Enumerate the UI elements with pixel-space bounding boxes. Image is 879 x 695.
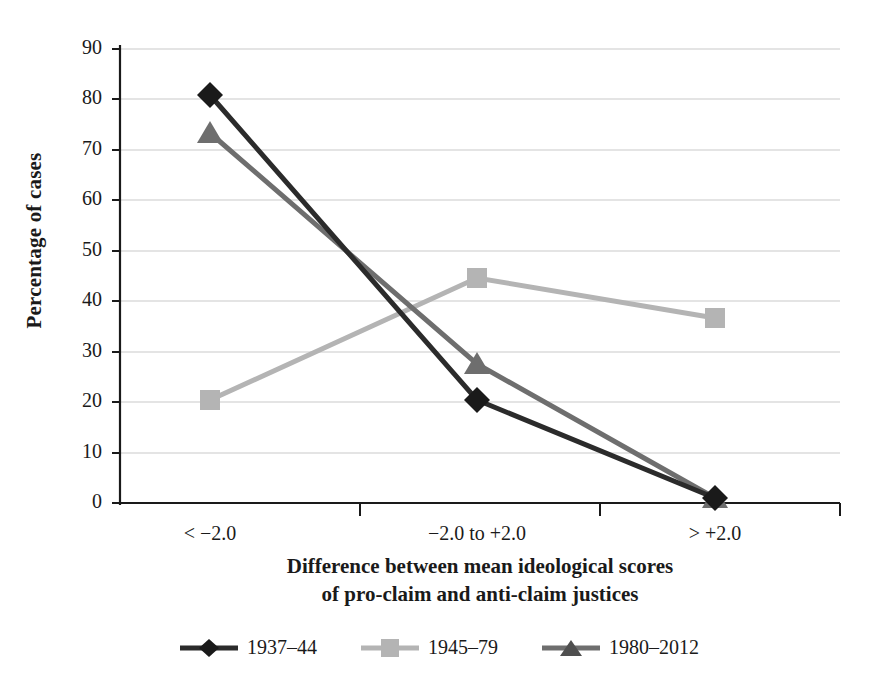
y-tick-label-40: 40: [56, 288, 102, 311]
x-tick-label-minus-2-to-plus-2: −2.0 to +2.0: [377, 522, 577, 545]
legend-item-1937-44[interactable]: 1937–44: [180, 636, 317, 659]
y-axis-title: Percentage of cases: [22, 111, 47, 371]
x-tick-label-lt-minus-2: < −2.0: [130, 522, 290, 545]
legend-marker-diamond-icon: [180, 638, 238, 658]
series-line-1980-2012: [197, 121, 728, 508]
x-axis-title-line2: of pro-claim and anti-claim justices: [120, 580, 840, 608]
y-tick-label-0: 0: [56, 490, 102, 513]
chart-legend: 1937–44 1945–79 1980–2012: [0, 636, 879, 659]
legend-marker-square-icon: [361, 638, 419, 658]
y-axis-ticks: [112, 49, 120, 503]
legend-item-1945-79[interactable]: 1945–79: [361, 636, 498, 659]
series-line-1945-79: [200, 268, 725, 410]
y-tick-label-10: 10: [56, 440, 102, 463]
legend-label-1980-2012: 1980–2012: [609, 636, 699, 659]
y-tick-label-60: 60: [56, 187, 102, 210]
x-axis-ticks: [360, 503, 840, 516]
chart-container: 90 80 70 60 50 40 30 20 10 0 < −2.0 −2.0…: [0, 0, 879, 695]
y-tick-label-20: 20: [56, 389, 102, 412]
y-tick-label-80: 80: [56, 86, 102, 109]
x-axis-title-line1: Difference between mean ideological scor…: [120, 552, 840, 580]
y-tick-label-90: 90: [56, 36, 102, 59]
y-tick-label-70: 70: [56, 137, 102, 160]
legend-item-1980-2012[interactable]: 1980–2012: [542, 636, 699, 659]
legend-label-1937-44: 1937–44: [247, 636, 317, 659]
y-tick-label-50: 50: [56, 238, 102, 261]
legend-label-1945-79: 1945–79: [428, 636, 498, 659]
x-axis-title: Difference between mean ideological scor…: [120, 552, 840, 609]
y-tick-label-30: 30: [56, 339, 102, 362]
x-tick-label-gt-plus-2: > +2.0: [635, 522, 795, 545]
legend-marker-triangle-icon: [542, 638, 600, 658]
series-line-1937-44: [197, 82, 728, 511]
